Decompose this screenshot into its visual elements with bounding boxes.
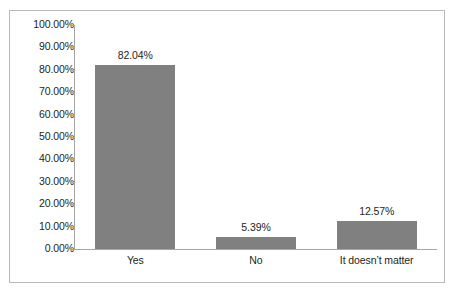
bar-slot: 5.39% [196, 25, 317, 249]
y-axis-tick-mark [70, 182, 74, 183]
x-axis-category-label: Yes [75, 254, 196, 267]
plot-area: 82.04%5.39%12.57% [75, 25, 437, 249]
y-axis-tick-label: 30.00% [10, 176, 74, 187]
y-axis-tick-label: 20.00% [10, 198, 74, 209]
y-axis-tick-label: 0.00% [10, 243, 74, 254]
bar[interactable] [216, 237, 296, 249]
y-axis-tick-label: 50.00% [10, 131, 74, 142]
y-axis-tick-mark [70, 115, 74, 116]
y-axis-tick-mark [70, 47, 74, 48]
bar[interactable] [95, 65, 175, 249]
y-axis-tick-label: 90.00% [10, 41, 74, 52]
y-axis-tick-mark [70, 25, 74, 26]
bar-value-label: 82.04% [118, 50, 153, 61]
y-axis-tick-mark [70, 70, 74, 71]
y-axis-tick-label: 80.00% [10, 64, 74, 75]
chart-frame: 0.00%10.00%20.00%30.00%40.00%50.00%60.00… [9, 10, 445, 283]
x-axis-category-label: No [196, 254, 317, 267]
y-axis-tick-label: 60.00% [10, 109, 74, 120]
y-axis-tick-mark [70, 227, 74, 228]
y-axis-tick-mark [70, 92, 74, 93]
y-axis-tick-mark [70, 159, 74, 160]
y-axis-tick-label: 100.00% [10, 19, 74, 30]
bar-slot: 12.57% [316, 25, 437, 249]
y-axis-tick-mark [70, 204, 74, 205]
bar-value-label: 5.39% [241, 222, 270, 233]
y-axis-tick-mark [70, 137, 74, 138]
x-axis-category-label-group: YesNoIt doesn’t matter [75, 254, 437, 274]
y-axis-tick-label: 40.00% [10, 153, 74, 164]
y-axis-tick-label-group: 0.00%10.00%20.00%30.00%40.00%50.00%60.00… [10, 11, 74, 250]
bar-slot: 82.04% [75, 25, 196, 249]
y-axis-tick-label: 10.00% [10, 221, 74, 232]
bar[interactable] [337, 221, 417, 249]
bar-value-label: 12.57% [359, 206, 394, 217]
x-axis-line [74, 249, 437, 250]
x-axis-category-label: It doesn’t matter [316, 254, 437, 267]
y-axis-tick-label: 70.00% [10, 86, 74, 97]
